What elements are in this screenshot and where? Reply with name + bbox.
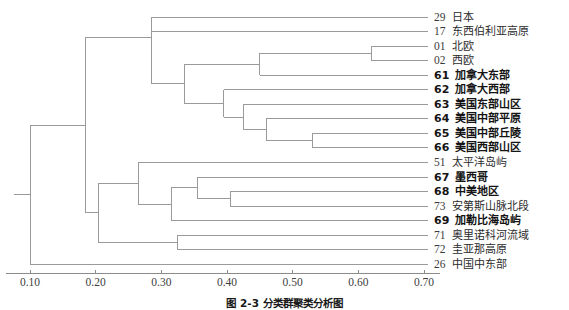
x-tick-label: 0.50 (283, 276, 303, 288)
figure-caption: 图 2-3 分类群聚类分析图 (0, 295, 569, 310)
x-tick-label: 0.10 (20, 276, 40, 288)
x-tick-label: 0.70 (414, 276, 434, 288)
x-tick-label: 0.40 (217, 276, 237, 288)
x-tick-label: 0.30 (151, 276, 171, 288)
x-tick-label: 0.20 (86, 276, 106, 288)
x-tick-label: 0.60 (348, 276, 368, 288)
